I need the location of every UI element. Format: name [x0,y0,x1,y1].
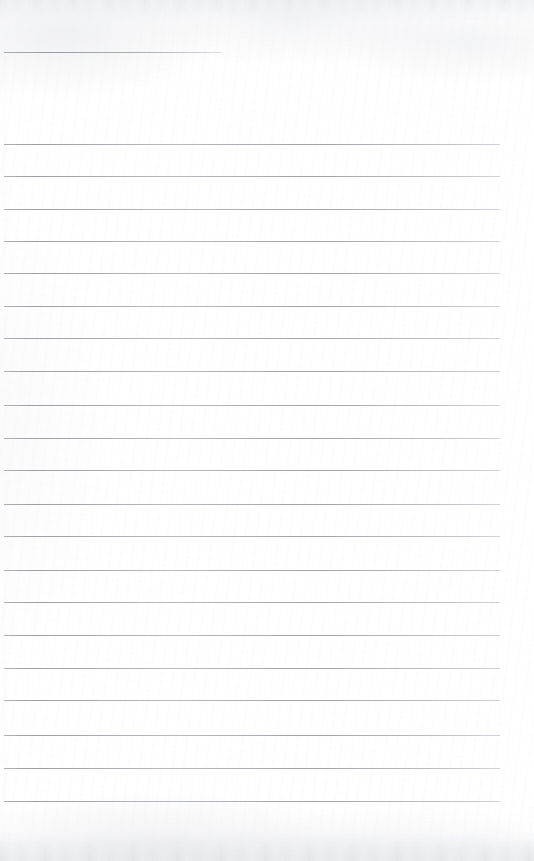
short-header-rule [4,52,222,53]
scan-edge-top-shadow [0,0,534,14]
page-text-content[interactable] [8,60,500,801]
notebook-page [0,0,534,861]
ruled-line [4,801,500,802]
scan-edge-bottom-shadow [0,839,534,861]
